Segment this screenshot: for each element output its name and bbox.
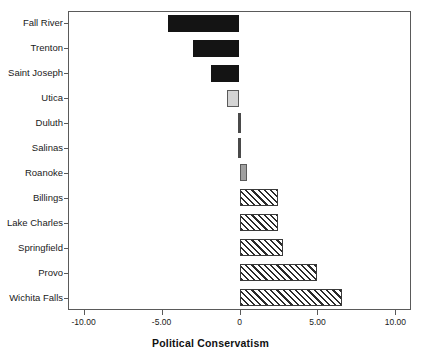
- y-axis-label: Saint Joseph: [8, 67, 68, 79]
- bar: [240, 289, 343, 306]
- x-axis-tick-label: 10.00: [385, 317, 406, 327]
- y-axis-label: Trenton: [31, 42, 68, 54]
- bar: [168, 15, 240, 32]
- y-axis-label: Roanoke: [25, 167, 68, 179]
- x-axis-tick: [162, 310, 163, 315]
- bar: [240, 239, 284, 256]
- horizontal-bar-chart: Fall RiverTrentonSaint JosephUticaDuluth…: [0, 0, 421, 359]
- x-axis-tick-label: -5.00: [152, 317, 171, 327]
- y-axis-label: Fall River: [23, 17, 68, 29]
- x-axis-tick: [240, 310, 241, 315]
- y-axis-label: Salinas: [32, 142, 68, 154]
- y-axis-label: Springfield: [18, 242, 68, 254]
- bar: [227, 90, 239, 107]
- y-axis-label: Lake Charles: [7, 217, 68, 229]
- bar: [211, 65, 239, 82]
- x-axis: -10.00-5.0005.0010.00: [68, 310, 411, 336]
- bar: [240, 214, 279, 231]
- x-axis-tick-label: 0: [237, 317, 242, 327]
- y-axis: Fall RiverTrentonSaint JosephUticaDuluth…: [0, 11, 68, 310]
- x-axis-title: Political Conservatism: [0, 337, 421, 349]
- x-axis-tick: [395, 310, 396, 315]
- x-axis-tick: [317, 310, 318, 315]
- x-axis-tick: [84, 310, 85, 315]
- y-axis-label: Billings: [33, 192, 68, 204]
- y-axis-label: Wichita Falls: [9, 292, 68, 304]
- x-axis-tick-label: 5.00: [309, 317, 326, 327]
- x-axis-tick-label: -10.00: [72, 317, 96, 327]
- bar: [240, 264, 318, 281]
- bar: [238, 113, 241, 133]
- bar: [193, 40, 240, 57]
- bar: [238, 138, 241, 158]
- bar: [240, 164, 248, 181]
- bar: [240, 189, 279, 206]
- bars-layer: [68, 11, 411, 310]
